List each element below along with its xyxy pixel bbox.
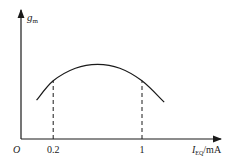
x-tick-label: 0.2 bbox=[47, 144, 60, 155]
x-tick-label: 1 bbox=[140, 144, 145, 155]
origin-label: O bbox=[13, 144, 20, 155]
x-axis-label: IEQ/mA bbox=[191, 144, 222, 156]
gm-curve bbox=[37, 64, 165, 102]
y-axis-label: gm bbox=[27, 11, 39, 25]
gm-vs-ieq-diagram: gm O IEQ/mA 0.21 bbox=[0, 0, 238, 163]
